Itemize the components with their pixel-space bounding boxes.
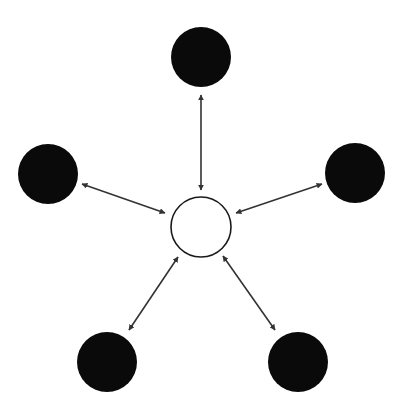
hub-spoke-diagram bbox=[0, 0, 402, 403]
hub-node bbox=[171, 197, 231, 257]
arrow-bottom-left-hub bbox=[129, 257, 178, 330]
diagram-canvas bbox=[0, 0, 402, 403]
nodes bbox=[18, 27, 385, 392]
arrow-right-hub bbox=[236, 184, 322, 213]
node-left bbox=[18, 144, 78, 204]
arrow-bottom-right-hub bbox=[223, 256, 275, 330]
node-bottom-right bbox=[268, 332, 328, 392]
arrow-left-hub bbox=[82, 184, 165, 213]
node-bottom-left bbox=[77, 332, 137, 392]
node-right bbox=[325, 143, 385, 203]
node-top bbox=[171, 27, 231, 87]
